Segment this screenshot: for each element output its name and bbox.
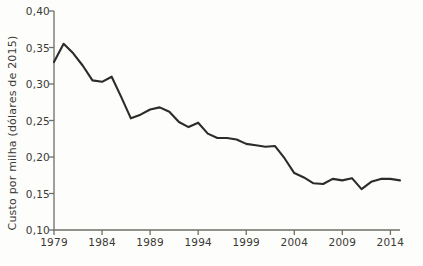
line-chart: Custo por milha (dólares de 2015) 0,100,…: [0, 0, 423, 266]
x-tick-label: 1999: [232, 236, 260, 248]
axis-lines: [54, 11, 400, 230]
y-tick-label: 0,35: [16, 42, 50, 54]
x-tick-label: 1979: [40, 236, 68, 248]
y-axis-tick-labels: 0,100,150,200,250,300,350,40: [10, 0, 50, 266]
y-tick-label: 0,40: [16, 5, 50, 17]
y-tick-label: 0,25: [16, 115, 50, 127]
x-tick-label: 2014: [377, 236, 405, 248]
y-tick-label: 0,10: [16, 224, 50, 236]
y-tick-label: 0,20: [16, 151, 50, 163]
x-tick-label: 1989: [136, 236, 164, 248]
data-series-line: [54, 44, 400, 189]
y-tick-label: 0,30: [16, 78, 50, 90]
x-tick-label: 2004: [281, 236, 309, 248]
y-tick-label: 0,15: [16, 188, 50, 200]
x-axis-tick-marks: [54, 230, 390, 235]
x-tick-label: 1994: [184, 236, 212, 248]
x-tick-label: 2009: [329, 236, 357, 248]
plot-area: [54, 11, 400, 230]
x-tick-label: 1984: [88, 236, 116, 248]
data-line-svg: [54, 11, 400, 230]
